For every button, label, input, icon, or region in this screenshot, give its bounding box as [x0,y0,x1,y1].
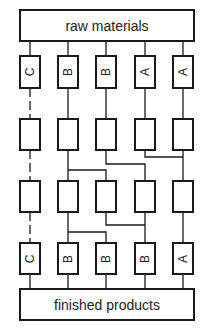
station-label: A [176,68,190,76]
finished-products-box: finished products [20,289,194,320]
process-flow-diagram: raw materials C B B A A C B [0,0,223,336]
station-label: B [138,255,152,263]
station-r1-c2: B [58,56,78,88]
station-label: C [23,254,37,263]
station-label: B [61,255,75,263]
station-r2-c1 [20,119,40,150]
row-4: C B B B A [20,243,193,274]
row-1: C B B A A [20,56,193,88]
station-label: C [23,67,37,76]
station-r3-c2 [58,181,78,212]
station-r2-c3 [96,119,116,150]
row-2 [20,119,193,150]
station-label: A [176,255,190,263]
station-r3-c4 [135,181,155,212]
station-r2-c4 [135,119,155,150]
row-3 [20,181,193,212]
station-r4-c2: B [58,243,78,274]
station-r4-c4: B [135,243,155,274]
station-r2-c2 [58,119,78,150]
station-r3-c3 [96,181,116,212]
station-r3-c1 [20,181,40,212]
station-label: B [99,68,113,76]
station-r1-c4: A [135,56,155,88]
station-r4-c1: C [20,243,40,274]
station-r4-c3: B [96,243,116,274]
station-r3-c5 [173,181,193,212]
station-label: B [61,68,75,76]
station-r1-c3: B [96,56,116,88]
station-label: A [138,68,152,76]
raw-materials-box: raw materials [20,10,194,41]
station-r1-c1: C [20,56,40,88]
station-r2-c5 [173,119,193,150]
station-r1-c5: A [173,56,193,88]
station-label: B [99,255,113,263]
station-r4-c5: A [173,243,193,274]
finished-products-label: finished products [54,297,160,313]
raw-materials-label: raw materials [65,18,148,34]
